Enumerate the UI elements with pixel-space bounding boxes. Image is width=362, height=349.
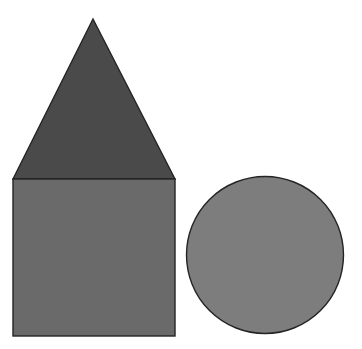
square-shape[interactable] bbox=[13, 179, 175, 336]
shapes-canvas bbox=[0, 0, 362, 349]
shapes-svg bbox=[0, 0, 362, 349]
circle-shape[interactable] bbox=[187, 177, 344, 334]
